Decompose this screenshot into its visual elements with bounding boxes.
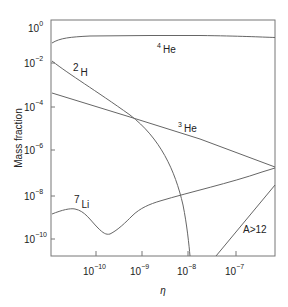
x-axis-title: η [160,285,166,296]
svg-text:10−7: 10−7 [225,263,244,277]
svg-text:10−9: 10−9 [130,263,149,277]
bbn-abundance-chart: 100 10−2 10−4 10−6 10−8 10−10 10−10 10−9… [0,0,288,307]
svg-text:10−6: 10−6 [24,142,43,156]
label-he3: 3He [178,121,197,134]
svg-text:100: 100 [28,20,43,34]
svg-text:10−8: 10−8 [24,188,43,202]
label-a12: A>12 [243,224,267,235]
svg-text:10−10: 10−10 [83,263,106,277]
svg-text:10−2: 10−2 [24,55,43,69]
curve-a12 [216,185,275,256]
svg-text:10−8: 10−8 [177,263,196,277]
label-li7: 7Li [74,194,89,210]
y-axis-title: Mass fraction [13,108,24,167]
curve-he4 [52,36,275,44]
x-tick-labels: 10−10 10−9 10−8 10−7 [83,263,244,277]
label-he4: 4He [157,42,176,55]
plot-frame [51,20,275,256]
curve-he3 [52,93,275,167]
y-tick-labels: 100 10−2 10−4 10−6 10−8 10−10 [24,20,47,245]
x-axis [96,251,236,256]
svg-text:10−10: 10−10 [24,231,47,245]
curve-labels: 4He 2H 3He 7Li A>12 [73,42,267,235]
svg-text:10−4: 10−4 [24,99,43,113]
label-h2: 2H [73,62,88,78]
